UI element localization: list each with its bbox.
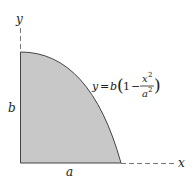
svg-text:2: 2 [148,86,152,94]
right-paren: ) [154,75,161,95]
svg-text:2: 2 [148,71,152,79]
diagram-canvas: y x b a y = b ( 1 − x 2 a 2 ) [0,0,195,184]
curve-equation: y = b ( 1 − x 2 a 2 ) [91,71,161,99]
svg-text:1: 1 [123,80,130,93]
svg-text:y: y [91,80,99,93]
svg-text:−: − [131,80,140,93]
shaded-region [21,52,122,163]
svg-text:b: b [110,80,117,93]
svg-text:=: = [100,80,109,93]
y-axis-label: y [15,12,23,26]
x-axis-label: x [178,156,185,170]
width-label-a: a [66,165,73,179]
height-label-b: b [8,101,16,115]
